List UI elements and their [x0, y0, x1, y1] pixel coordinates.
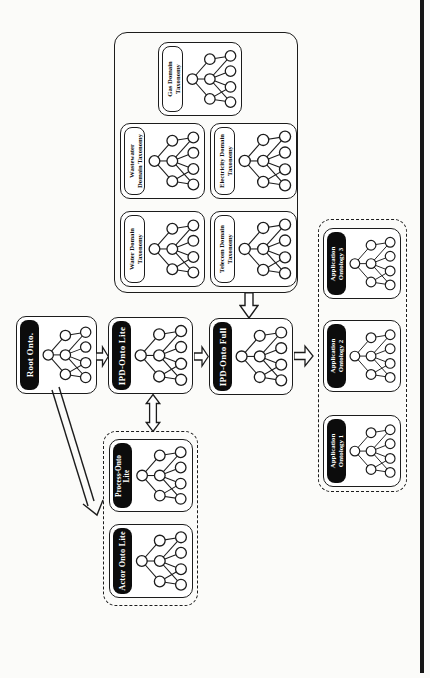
ontology-graph-icon	[237, 215, 293, 283]
application-ontology-1-box: Application Ontology 1	[323, 415, 401, 487]
application-ontology-3-box: Application Ontology 3	[323, 228, 401, 299]
wastewater-domain-taxonomy-box: Wastewater Domain Taxonomy	[120, 123, 205, 199]
telecom-domain-taxonomy-label: Telecom Domain Taxonomy	[214, 215, 235, 283]
ontology-graph-icon	[348, 232, 397, 295]
actor-onto-lite-label: Actor Onto Lite	[113, 528, 132, 594]
ontology-architecture-figure: Gas Domain Taxonomy	[0, 0, 430, 678]
gas-domain-taxonomy-box: Gas Domain Taxonomy	[158, 42, 242, 116]
arrow-ipdlite-to-ipdfull-icon	[194, 345, 209, 368]
electricity-domain-taxonomy-box: Electricity Domain Taxonomy	[210, 123, 297, 199]
process-onto-lite-label: Process-Onto Lite	[113, 443, 132, 508]
ontology-graph-icon	[147, 127, 201, 195]
application-ontology-3-label: Application Ontology 3	[327, 232, 346, 295]
ontology-graph-icon	[185, 46, 238, 112]
arrow-root-to-aspects-icon	[46, 386, 106, 520]
ontology-graph-icon	[348, 324, 397, 388]
ipd-onto-full-label: IPD-Onto Full	[213, 322, 232, 391]
ipd-onto-lite-box: IPD-Onto Lite	[108, 317, 193, 394]
ontology-graph-icon	[134, 528, 189, 594]
actor-onto-lite-box: Actor Onto Lite	[109, 524, 193, 598]
ontology-graph-icon	[234, 322, 289, 391]
ontology-graph-icon	[348, 419, 397, 483]
double-arrow-ipdlite-aspects-icon	[144, 394, 162, 432]
application-ontology-1-label: Application Ontology 1	[327, 419, 346, 483]
arrow-ipdfull-to-applications-icon	[294, 344, 314, 368]
root-onto-label: Root Onto.	[20, 320, 39, 390]
application-ontology-2-label: Application Ontology 2	[327, 324, 346, 388]
ontology-graph-icon	[147, 215, 201, 283]
ipd-onto-full-box: IPD-Onto Full	[209, 318, 293, 395]
process-onto-lite-box: Process-Onto Lite	[109, 439, 193, 512]
application-ontology-2-box: Application Ontology 2	[323, 320, 401, 392]
telecom-domain-taxonomy-box: Telecom Domain Taxonomy	[210, 211, 297, 287]
ontology-graph-icon	[133, 321, 189, 390]
gas-domain-taxonomy-label: Gas Domain Taxonomy	[162, 46, 183, 112]
water-domain-taxonomy-box: Water Domain Taxonomy	[120, 211, 205, 287]
ipd-onto-lite-label: IPD-Onto Lite	[112, 321, 131, 390]
water-domain-taxonomy-label: Water Domain Taxonomy	[124, 215, 145, 283]
ontology-graph-icon	[237, 127, 293, 195]
ontology-graph-icon	[41, 320, 93, 390]
arrow-domains-to-ipdfull-icon	[239, 292, 259, 319]
ontology-graph-icon	[134, 443, 189, 508]
root-onto-box: Root Onto.	[16, 316, 97, 394]
wastewater-domain-taxonomy-label: Wastewater Domain Taxonomy	[124, 127, 145, 195]
page-edge-bar	[420, 0, 424, 673]
electricity-domain-taxonomy-label: Electricity Domain Taxonomy	[214, 127, 235, 195]
